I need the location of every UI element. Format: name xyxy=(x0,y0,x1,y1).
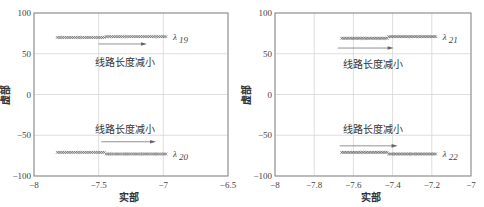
y-tick-label: 0 xyxy=(268,90,273,100)
annotation-text: 线路长度减小 xyxy=(343,123,403,135)
y-axis-label: 虚部 xyxy=(0,85,11,105)
arrow-head-icon xyxy=(150,140,156,144)
y-tick-label: −50 xyxy=(17,130,32,140)
left-plot: −8−7.5−7−6.5100500−50−100实部虚部λ19λ20线路长度减… xyxy=(0,8,237,203)
annotation-text: 线路长度减小 xyxy=(95,123,155,135)
data-marker xyxy=(434,35,437,38)
x-axis-label: 实部 xyxy=(119,191,139,203)
annotation-text: 线路长度减小 xyxy=(343,58,403,70)
series-label-subscript: 20 xyxy=(179,152,189,162)
figure: −8−7.5−7−6.5100500−50−100实部虚部λ19λ20线路长度减… xyxy=(0,0,484,207)
x-tick-label: −8 xyxy=(270,180,280,190)
y-tick-label: 100 xyxy=(18,8,32,18)
arrow-head-icon xyxy=(392,144,398,148)
series-label-lambda: λ xyxy=(442,32,447,42)
data-marker xyxy=(165,153,168,156)
series-label-subscript: 19 xyxy=(179,35,189,45)
annotation-text: 线路长度减小 xyxy=(95,56,155,68)
data-marker xyxy=(165,35,168,38)
y-tick-label: −100 xyxy=(253,171,272,181)
y-tick-label: 50 xyxy=(22,49,32,59)
series-label-subscript: 22 xyxy=(449,152,459,162)
y-tick-label: 50 xyxy=(263,49,273,59)
y-tick-label: −50 xyxy=(258,130,273,140)
y-tick-label: 0 xyxy=(27,90,32,100)
x-tick-label: −8 xyxy=(29,180,39,190)
x-tick-label: −7 xyxy=(159,180,169,190)
data-marker xyxy=(434,153,437,156)
series-label-lambda: λ xyxy=(442,149,447,159)
series-label-lambda: λ xyxy=(172,32,177,42)
series-label-subscript: 21 xyxy=(449,35,458,45)
x-tick-label: −7.2 xyxy=(424,180,440,190)
x-tick-label: −7 xyxy=(466,180,476,190)
y-tick-label: −100 xyxy=(12,171,31,181)
x-tick-label: −7.6 xyxy=(345,180,362,190)
x-axis-label: 实部 xyxy=(361,191,381,203)
series-label-lambda: λ xyxy=(172,149,177,159)
x-tick-label: −7.8 xyxy=(306,180,323,190)
x-tick-label: −7.5 xyxy=(91,180,108,190)
x-tick-label: −7.4 xyxy=(384,180,401,190)
x-tick-label: −6.5 xyxy=(220,180,237,190)
y-axis-label: 虚部 xyxy=(240,85,252,105)
right-plot: −8−7.8−7.6−7.4−7.2−7100500−50−100实部虚部λ21… xyxy=(240,8,476,203)
y-tick-label: 100 xyxy=(259,8,273,18)
arrow-head-icon xyxy=(141,42,147,46)
